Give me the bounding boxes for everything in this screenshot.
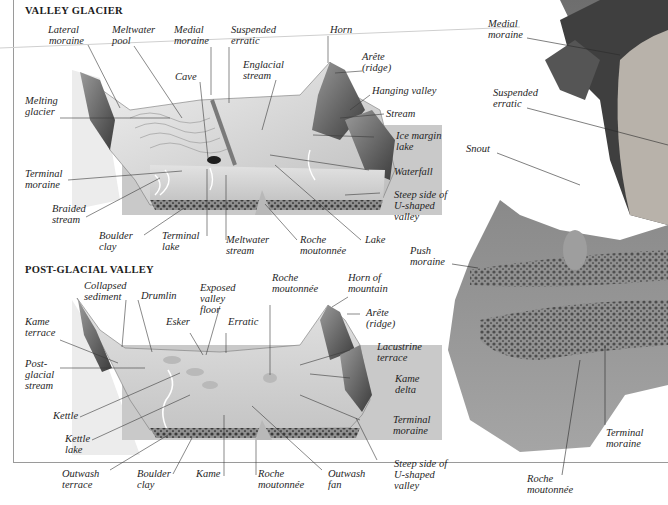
label-meltwater-pool: Meltwater pool (112, 24, 155, 46)
label-kettle: Kettle (53, 410, 78, 421)
label-englacial-stream: Englacial stream (243, 59, 284, 81)
label-lateral-moraine: Lateral moraine (48, 24, 84, 46)
post-glacial-valley-title: POST-GLACIAL VALLEY (25, 264, 154, 275)
label-braided-stream: Braided stream (52, 203, 86, 225)
label-outwash-terrace: Outwash terrace (62, 468, 99, 490)
label-kettle-lake: Kettle lake (65, 433, 90, 455)
label-horn: Horn (330, 24, 352, 35)
label-lacustrine-terrace: Lacustrine terrace (377, 341, 422, 363)
label-melting-glacier: Melting glacier (25, 95, 58, 117)
label-kame: Kame (196, 468, 221, 479)
glacier-snout-photo (448, 0, 668, 452)
label-terminal-lake: Terminal lake (162, 230, 200, 252)
label-meltwater-stream: Meltwater stream (226, 234, 269, 256)
label-lake: Lake (365, 234, 385, 245)
label-waterfall: Waterfall (394, 166, 433, 177)
label-terminal-moraine-post: Terminal moraine (393, 414, 431, 436)
label-steep-side: Steep side of U-shaped valley (394, 189, 447, 222)
label-suspended-erratic: Suspended erratic (231, 24, 276, 46)
label-stream: Stream (386, 108, 415, 119)
label-roche-moutonnee-top: Roche moutonnée (272, 272, 318, 294)
label-medial-moraine: Medial moraine (174, 24, 209, 46)
label-esker: Esker (166, 316, 190, 327)
label-post-glacial-stream: Post- glacial stream (25, 358, 54, 391)
label-kame-delta: Kame delta (395, 373, 420, 395)
label-terminal-moraine: Terminal moraine (25, 168, 63, 190)
label-drumlin: Drumlin (141, 290, 177, 301)
label-photo-snout: Snout (466, 143, 490, 154)
label-photo-medial-moraine: Medial moraine (488, 18, 523, 40)
label-roche-moutonnee: Roche moutonnée (300, 234, 346, 256)
label-steep-side-post: Steep side of U-shaped valley (394, 458, 447, 491)
label-boulder-clay: Boulder clay (99, 230, 133, 252)
label-arete-post: Arête (ridge) (366, 307, 395, 329)
label-arete: Arête (ridge) (362, 51, 391, 73)
valley-glacier-title: VALLEY GLACIER (25, 5, 123, 16)
label-roche-moutonnee-bottom: Roche moutonnée (258, 468, 304, 490)
label-collapsed-sediment: Collapsed sediment (84, 280, 127, 302)
label-hanging-valley: Hanging valley (372, 85, 436, 96)
label-photo-terminal-moraine: Terminal moraine (606, 427, 644, 449)
label-photo-push-moraine: Push moraine (410, 245, 445, 267)
label-cave: Cave (175, 71, 197, 82)
label-photo-roche-moutonnee: Roche moutonnée (527, 473, 573, 495)
label-photo-suspended-erratic: Suspended erratic (493, 87, 538, 109)
label-boulder-clay-post: Boulder clay (137, 468, 171, 490)
label-erratic: Erratic (228, 316, 258, 327)
label-horn-of-mountain: Horn of mountain (348, 272, 388, 294)
label-exposed-valley-floor: Exposed valley floor (200, 282, 236, 315)
label-ice-margin-lake: Ice margin lake (396, 130, 441, 152)
label-outwash-fan: Outwash fan (328, 468, 365, 490)
label-kame-terrace: Kame terrace (25, 316, 55, 338)
